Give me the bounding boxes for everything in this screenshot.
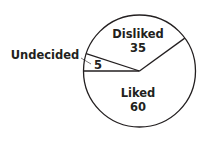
undecided-value: 5 [94,58,102,72]
liked-label: Liked [121,86,156,100]
disliked-label: Disliked [112,27,164,41]
liked-value: 60 [130,100,146,114]
disliked-value: 35 [130,41,146,55]
undecided-label: Undecided [11,48,80,62]
pie-chart: Disliked 35 Liked 60 Undecided 5 [0,0,210,145]
